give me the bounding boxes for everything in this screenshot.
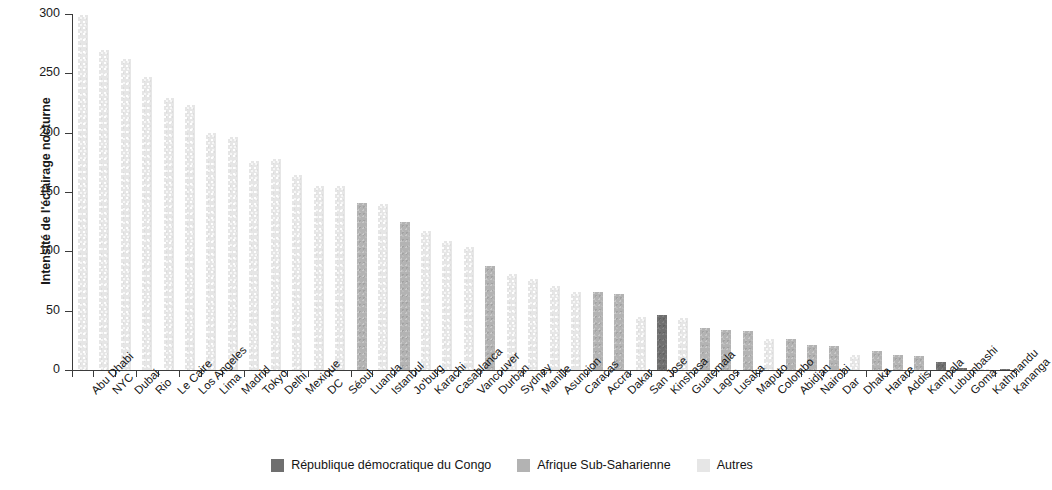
legend-label: Afrique Sub-Saharienne [537,458,670,472]
bar-colombo[interactable] [764,339,774,370]
bar-le-caire[interactable] [164,98,174,370]
legend-swatch-icon [697,459,710,472]
legend-swatch-icon [271,459,284,472]
legend-entry-other[interactable]: Autres [697,458,753,472]
y-axis-tick-mark [65,192,72,193]
bar-dc[interactable] [314,186,324,370]
bar-istanbul[interactable] [378,204,388,370]
legend-entry-drc[interactable]: République démocratique du Congo [271,458,491,472]
bar-rio[interactable] [142,77,152,370]
x-axis-tick-mark [866,371,867,377]
y-axis-tick-mark [65,14,72,15]
bar-dubai[interactable] [121,59,131,370]
y-axis-tick-label: 0 [10,364,60,374]
x-axis-tick-mark [93,371,94,377]
bar-caracas[interactable] [571,292,581,370]
bar-s-oul[interactable] [335,186,345,370]
bar-nyc[interactable] [99,50,109,370]
bar-abidjan[interactable] [786,339,796,370]
bar-tokyo[interactable] [249,161,259,370]
legend-label: Autres [717,458,753,472]
bar-los-angeles[interactable] [185,105,195,370]
bar-luanda[interactable] [357,203,367,370]
bar-manille[interactable] [528,279,538,370]
bar-casablanca[interactable] [442,241,452,370]
y-axis-tick-mark [65,251,72,252]
bar-dakar[interactable] [614,294,624,370]
y-axis-tick-mark [65,311,72,312]
x-axis-tick-mark [244,371,245,377]
y-axis-tick-mark [65,133,72,134]
bar-maputo[interactable] [743,331,753,370]
bar-mexique[interactable] [292,175,302,370]
y-axis-tick-label: 150 [10,186,60,196]
x-axis-tick-mark [179,371,180,377]
y-axis-tick-label: 100 [10,245,60,255]
bar-kinshasa[interactable] [657,315,667,370]
legend-swatch-icon [517,459,530,472]
bar-abu-dhabi[interactable] [78,15,88,370]
y-axis-tick-label: 300 [10,8,60,18]
y-axis-tick-label: 250 [10,67,60,77]
bar-lima[interactable] [206,133,216,370]
bar-dhaka[interactable] [850,355,860,370]
x-axis-tick-mark [136,371,137,377]
y-axis-tick-label: 50 [10,305,60,315]
bar-madrid[interactable] [228,137,238,370]
bar-vancouver[interactable] [464,247,474,370]
legend-entry-ssa[interactable]: Afrique Sub-Saharienne [517,458,670,472]
bar-jo-burg[interactable] [400,222,410,370]
bar-san-jose[interactable] [636,317,646,370]
bar-delhi[interactable] [271,159,281,370]
bar-asuncion[interactable] [550,286,560,370]
plot-area: 050100150200250300 Abu DhabiNYCDubaiRioL… [72,14,1016,370]
y-axis-tick-mark [65,370,72,371]
y-axis-tick-mark [65,73,72,74]
chart-legend: République démocratique du CongoAfrique … [0,458,1024,472]
bar-karachi[interactable] [421,231,431,370]
x-axis-tick-mark [351,371,352,377]
y-axis-line [72,14,73,370]
x-axis-tick-mark [72,371,73,377]
legend-label: République démocratique du Congo [291,458,491,472]
y-axis-tick-label: 200 [10,127,60,137]
